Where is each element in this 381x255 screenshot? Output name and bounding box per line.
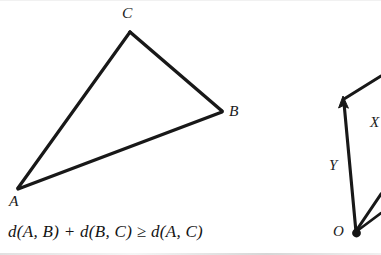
vector-x-shaft — [356, 194, 381, 231]
vector-label-y: Y — [329, 158, 337, 173]
vector-addition-diagram — [0, 0, 381, 255]
vector-y-shaft — [344, 103, 356, 232]
triangle-inequality-caption: d(A, B) + d(B, C) ≥ d(A, C) — [8, 222, 203, 242]
vector-origin-label: O — [333, 224, 344, 239]
vector-label-x: X — [370, 115, 379, 130]
vector-resultant-segment — [344, 76, 381, 99]
figure-page: C B A X Y O d(A, B) + d(B, C) ≥ d(A, C) — [0, 0, 381, 255]
vector-origin-point — [352, 229, 361, 238]
